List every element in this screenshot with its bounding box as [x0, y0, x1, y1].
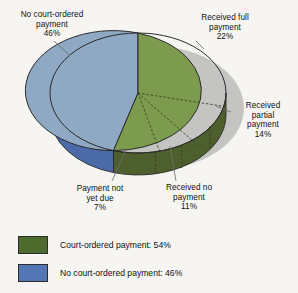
pie-chart-figure: No court-ordered payment 46% Received fu…	[0, 0, 298, 293]
callout-line-1: Received	[246, 101, 281, 110]
callout-line-3: payment	[247, 120, 279, 129]
chart-legend: Court-ordered payment: 54% No court-orde…	[18, 234, 280, 290]
callout-line-2: payment	[173, 193, 205, 202]
callout-received-full-payment: Received full payment 22%	[182, 13, 268, 42]
callout-line-1: Received full	[201, 13, 249, 22]
callout-line-1: No court-ordered	[21, 10, 84, 19]
legend-item-court-ordered: Court-ordered payment: 54%	[18, 234, 280, 256]
legend-swatch-court-ordered	[18, 236, 48, 254]
legend-label-court-ordered: Court-ordered payment: 54%	[60, 240, 171, 250]
legend-swatch-no-court-ordered	[18, 264, 48, 282]
callout-percent: 46%	[4, 29, 100, 39]
callout-percent: 22%	[182, 32, 268, 42]
callout-percent: 14%	[232, 130, 294, 140]
callout-received-partial-payment: Received partial payment 14%	[232, 101, 294, 139]
callout-line-2: yet due	[86, 194, 113, 203]
callout-line-2: payment	[36, 20, 68, 29]
callout-received-no-payment: Received no payment 11%	[148, 183, 230, 212]
legend-item-no-court-ordered: No court-ordered payment: 46%	[18, 262, 280, 284]
callout-line-1: Payment not	[77, 184, 124, 193]
legend-label-no-court-ordered: No court-ordered payment: 46%	[60, 268, 182, 278]
callout-line-1: Received no	[166, 183, 212, 192]
callout-payment-not-yet-due: Payment not yet due 7%	[58, 184, 142, 213]
callout-no-court-ordered-payment: No court-ordered payment 46%	[4, 10, 100, 39]
leader-received-full	[196, 41, 204, 49]
callout-percent: 7%	[58, 203, 142, 213]
callout-percent: 11%	[148, 202, 230, 212]
callout-line-2: payment	[209, 23, 241, 32]
callout-line-2: partial	[252, 111, 275, 120]
